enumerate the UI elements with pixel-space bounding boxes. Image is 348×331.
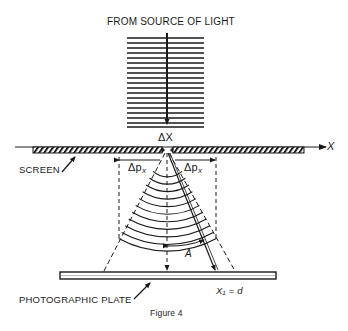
momentum-right-subscript: x bbox=[198, 166, 202, 175]
momentum-left-label: Δpx bbox=[128, 161, 146, 175]
plate-pointer-arrow bbox=[134, 283, 150, 299]
screen-label: SCREEN bbox=[19, 164, 60, 175]
axis-label: X bbox=[327, 140, 335, 152]
slit-width-label: ΔX bbox=[158, 131, 173, 143]
angle-label: A bbox=[185, 248, 192, 259]
plane-wavefronts bbox=[127, 38, 204, 127]
momentum-left-symbol: Δp bbox=[128, 161, 142, 173]
figure-caption: Figure 4 bbox=[150, 308, 183, 318]
momentum-left-subscript: x bbox=[142, 166, 146, 175]
screen-pointer-arrow bbox=[62, 157, 75, 172]
figure-title: FROM SOURCE OF LIGHT bbox=[107, 16, 235, 27]
plate-label: PHOTOGRAPHIC PLATE bbox=[19, 294, 132, 305]
screen-left bbox=[33, 147, 162, 153]
momentum-right-symbol: Δp bbox=[184, 161, 198, 173]
momentum-right-label: Δpx bbox=[184, 161, 202, 175]
plate-position-label: X₁ = d bbox=[216, 285, 243, 296]
screen-right bbox=[173, 147, 304, 153]
diffraction-cone bbox=[104, 153, 235, 271]
